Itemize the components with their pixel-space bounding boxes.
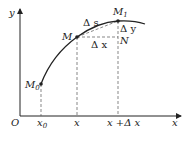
label-m1: M1: [112, 6, 128, 19]
label-delta-y: Δ y: [120, 23, 136, 34]
x-axis-label: x: [172, 117, 178, 128]
point-m: [75, 35, 79, 39]
y-axis-label: y: [8, 7, 15, 18]
label-delta-x: Δ x: [91, 39, 107, 50]
tick-x: x: [74, 117, 80, 128]
label-n: N: [119, 35, 130, 46]
arc-length-diagram: M0 M M1 N Δ s Δ x Δ y y x O x0 x x +Δ x: [0, 0, 188, 146]
label-m0: M0: [24, 79, 40, 92]
point-m0: [39, 82, 43, 86]
origin-label: O: [11, 117, 19, 128]
label-delta-s: Δ s: [83, 17, 99, 28]
tick-x0: x0: [37, 117, 48, 130]
tick-x-plus-dx: x +Δ x: [107, 117, 141, 128]
label-m: M: [61, 31, 73, 42]
